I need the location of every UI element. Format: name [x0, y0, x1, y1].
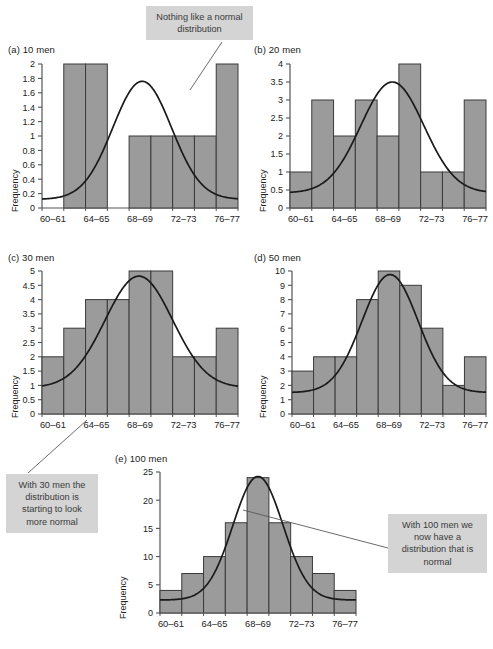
callout-c-leader — [25, 420, 95, 476]
y-tick-label: 2.5 — [22, 338, 35, 348]
y-tick-label: 7 — [280, 309, 285, 319]
y-tick-label: 1 — [30, 131, 35, 141]
panel-b: (b) 20 men Frequency 00.511.522.533.5460… — [246, 40, 493, 245]
x-tick-label: 72–73 — [419, 420, 445, 430]
histogram-bar — [173, 357, 195, 414]
y-tick-label: 1.6 — [22, 88, 35, 98]
histogram-bar — [377, 136, 399, 208]
callout-a: Nothing like a normal distribution — [146, 6, 253, 40]
x-tick-label: 60–61 — [290, 420, 316, 430]
panel-b-title: (b) 20 men — [254, 44, 301, 55]
y-tick-label: 3 — [30, 324, 35, 334]
y-tick-label: 1 — [278, 167, 283, 177]
x-tick-label: 76–77 — [462, 214, 488, 224]
x-tick-label: 64–65 — [333, 420, 359, 430]
x-tick-label: 72–73 — [171, 420, 197, 430]
y-tick-label: 0.2 — [22, 189, 35, 199]
histogram-bar — [151, 136, 173, 208]
y-tick-label: 5 — [30, 266, 35, 276]
x-tick-label: 68–69 — [245, 619, 271, 629]
histogram-bar — [216, 328, 238, 414]
histogram-bar — [182, 574, 204, 613]
x-tick-label: 68–69 — [376, 420, 402, 430]
panel-d-title: (d) 50 men — [254, 252, 301, 263]
histogram-bar — [107, 300, 129, 414]
y-tick-label: 4 — [280, 352, 285, 362]
histogram-bar — [421, 172, 443, 208]
histogram-bar — [129, 136, 151, 208]
x-tick-label: 76–77 — [214, 420, 240, 430]
histogram-bar — [64, 64, 86, 208]
y-tick-label: 1.8 — [22, 74, 35, 84]
histogram-bar — [194, 357, 216, 414]
x-tick-label: 64–65 — [84, 214, 110, 224]
y-tick-label: 5 — [280, 338, 285, 348]
histogram-bar — [334, 136, 356, 208]
y-tick-label: 4 — [278, 59, 283, 69]
histogram-bar — [400, 285, 422, 414]
histogram-bar — [357, 300, 379, 414]
figure-normal-distributions: (a) 10 men Frequency 00.20.40.60.811.21.… — [0, 0, 493, 649]
x-tick-label: 76–77 — [214, 214, 240, 224]
y-tick-label: 1.5 — [22, 366, 35, 376]
y-tick-label: 0 — [30, 203, 35, 213]
histogram-bar — [421, 328, 443, 414]
y-tick-label: 0 — [148, 608, 153, 618]
y-tick-label: 0.8 — [22, 146, 35, 156]
y-tick-label: 6 — [280, 324, 285, 334]
callout-e: With 100 men we now have a distribution … — [388, 514, 487, 573]
histogram-bar — [399, 64, 421, 208]
callout-c: With 30 men the distribution is starting… — [6, 474, 98, 533]
histogram-bar — [464, 357, 486, 414]
y-tick-label: 8 — [280, 295, 285, 305]
panel-a-title: (a) 10 men — [8, 44, 55, 55]
histogram-bar — [378, 271, 400, 414]
histogram-bar — [173, 136, 195, 208]
y-tick-label: 9 — [280, 281, 285, 291]
x-tick-label: 76–77 — [462, 420, 488, 430]
y-tick-label: 20 — [143, 496, 153, 506]
y-tick-label: 1 — [280, 395, 285, 405]
histogram-bar — [334, 590, 356, 613]
histogram-bar — [160, 590, 182, 613]
x-tick-label: 68–69 — [127, 420, 153, 430]
y-tick-label: 2 — [30, 59, 35, 69]
x-tick-label: 60–61 — [158, 619, 184, 629]
histogram-bar — [86, 64, 108, 208]
y-tick-label: 0.5 — [22, 395, 35, 405]
y-tick-label: 0 — [278, 203, 283, 213]
x-tick-label: 60–61 — [288, 214, 314, 224]
y-tick-label: 5 — [148, 580, 153, 590]
histogram-bar — [442, 172, 464, 208]
x-tick-label: 64–65 — [332, 214, 358, 224]
x-tick-label: 68–69 — [375, 214, 401, 224]
y-tick-label: 10 — [275, 266, 285, 276]
y-tick-label: 2 — [30, 352, 35, 362]
panel-d: (d) 50 men Frequency 01234567891060–6164… — [246, 250, 493, 450]
y-tick-label: 4 — [30, 295, 35, 305]
x-tick-label: 72–73 — [171, 214, 197, 224]
y-tick-label: 3.5 — [22, 309, 35, 319]
y-tick-label: 4.5 — [22, 281, 35, 291]
histogram-bar — [129, 271, 151, 414]
panel-b-plot: 00.511.522.533.5460–6164–6568–6972–7376–… — [246, 58, 493, 245]
y-tick-label: 3.5 — [270, 77, 283, 87]
y-tick-label: 0.4 — [22, 175, 35, 185]
callout-e-leader — [243, 508, 391, 552]
x-tick-label: 76–77 — [332, 619, 358, 629]
histogram-bar — [443, 385, 465, 414]
x-tick-label: 60–61 — [40, 214, 66, 224]
histogram-bar — [312, 100, 334, 208]
y-tick-label: 3 — [278, 95, 283, 105]
y-tick-label: 10 — [143, 552, 153, 562]
y-tick-label: 0 — [280, 409, 285, 419]
panel-e-title: (e) 100 men — [115, 453, 167, 464]
histogram-bar — [64, 328, 86, 414]
y-tick-label: 1.4 — [22, 103, 35, 113]
x-tick-label: 72–73 — [419, 214, 445, 224]
histogram-bar — [194, 136, 216, 208]
panel-d-plot: 01234567891060–6164–6568–6972–7376–77 — [246, 266, 493, 450]
panel-e-plot: 051015202560–6164–6568–6972–7376–77 — [110, 467, 370, 649]
y-tick-label: 2.5 — [270, 113, 283, 123]
y-tick-label: 25 — [143, 467, 153, 477]
